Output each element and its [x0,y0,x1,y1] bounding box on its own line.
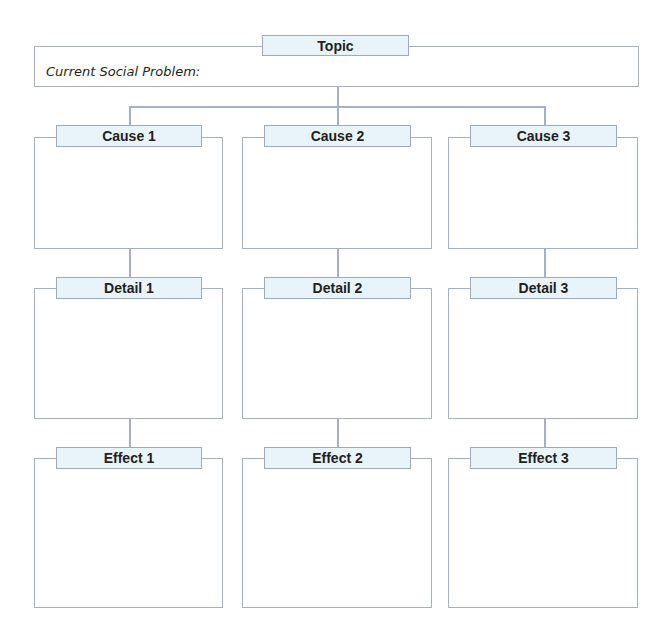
connector-detail-effect-1 [129,419,131,447]
detail-3-label: Detail 3 [470,277,617,299]
effect-2-box[interactable] [242,458,432,608]
connector-cause-detail-2 [337,249,339,277]
cause-3-box[interactable] [448,137,638,249]
cause-2-label: Cause 2 [264,125,411,147]
detail-2-box[interactable] [242,288,432,419]
connector-cause-detail-3 [544,249,546,277]
connector-detail-effect-3 [544,419,546,447]
connector-cause-detail-1 [129,249,131,277]
connector-detail-effect-2 [337,419,339,447]
cause-2-box[interactable] [242,137,432,249]
connector-topic-down [337,87,339,107]
connector-cause-2 [337,106,339,125]
cause-1-box[interactable] [34,137,223,249]
detail-1-label: Detail 1 [56,277,202,299]
detail-3-box[interactable] [448,288,638,419]
effect-3-label: Effect 3 [470,447,617,469]
effect-1-box[interactable] [34,458,223,608]
detail-1-box[interactable] [34,288,223,419]
connector-cause-1 [129,106,131,125]
cause-1-label: Cause 1 [56,125,202,147]
topic-prompt: Current Social Problem: [46,64,200,79]
effect-3-box[interactable] [448,458,638,608]
effect-2-label: Effect 2 [264,447,411,469]
cause-3-label: Cause 3 [470,125,617,147]
connector-cause-3 [544,106,546,125]
topic-label: Topic [262,35,409,56]
effect-1-label: Effect 1 [56,447,202,469]
detail-2-label: Detail 2 [264,277,411,299]
